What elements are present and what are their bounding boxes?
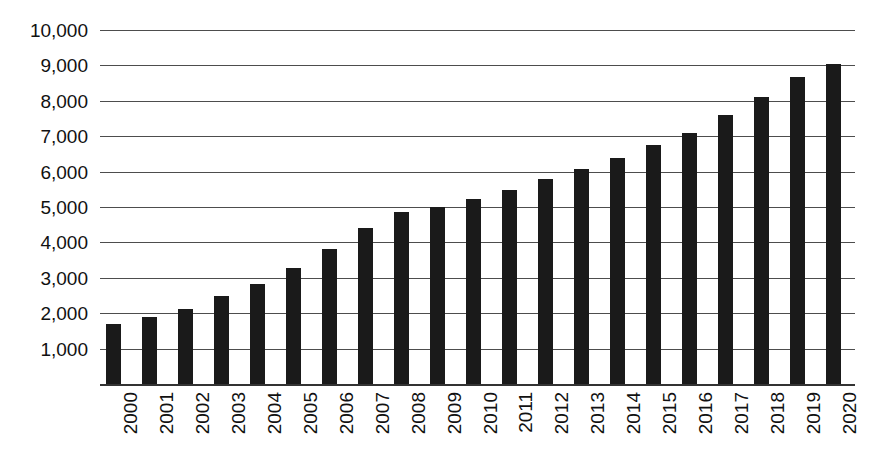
x-tick-label: 2005 [301, 392, 320, 434]
gridline-8000 [100, 101, 855, 102]
bar-2004 [250, 284, 265, 384]
x-tick-label: 2006 [337, 392, 356, 434]
y-tick-label: 9,000 [0, 56, 88, 75]
bar-2013 [574, 169, 589, 384]
x-tick-label: 2009 [445, 392, 464, 434]
x-tick-label: 2012 [552, 392, 571, 434]
bar-2014 [610, 158, 625, 384]
bar-2018 [754, 97, 769, 384]
bar-2019 [790, 77, 805, 384]
y-tick-label: 8,000 [0, 91, 88, 110]
x-tick-label: 2011 [516, 392, 535, 433]
plot-area [100, 30, 855, 390]
x-tick-label: 2018 [768, 392, 787, 434]
bar-2011 [502, 190, 517, 384]
gridline-9000 [100, 65, 855, 66]
y-tick-label: 5,000 [0, 198, 88, 217]
x-tick-label: 2008 [409, 392, 428, 434]
axis-baseline [100, 384, 855, 386]
x-tick-label: 2016 [696, 392, 715, 434]
y-tick-label: 3,000 [0, 268, 88, 287]
y-tick-label: 4,000 [0, 233, 88, 252]
bar-2012 [538, 179, 553, 384]
x-tick-label: 2013 [588, 392, 607, 434]
bar-2015 [646, 145, 661, 384]
bar-2010 [466, 199, 481, 384]
x-tick-label: 2015 [660, 392, 679, 434]
bar-2001 [142, 317, 157, 384]
x-tick-label: 2001 [157, 392, 176, 434]
x-axis: 2000200120022003200420052006200720082009… [100, 392, 855, 470]
bar-2007 [358, 228, 373, 384]
y-tick-label: 7,000 [0, 127, 88, 146]
x-tick-label: 2017 [732, 392, 751, 434]
x-tick-label: 2004 [265, 392, 284, 434]
bar-2009 [430, 207, 445, 384]
bar-chart: 1,0002,0003,0004,0005,0006,0007,0008,000… [0, 0, 871, 470]
gridline-10000 [100, 30, 855, 31]
gridline-7000 [100, 136, 855, 137]
bar-2020 [826, 64, 841, 384]
bar-2008 [394, 212, 409, 384]
x-tick-label: 2014 [624, 392, 643, 434]
y-axis: 1,0002,0003,0004,0005,0006,0007,0008,000… [0, 0, 88, 470]
x-tick-label: 2010 [481, 392, 500, 434]
x-tick-label: 2002 [193, 392, 212, 434]
bar-2000 [106, 324, 121, 384]
bar-2017 [718, 115, 733, 384]
x-tick-label: 2000 [121, 392, 140, 434]
x-tick-label: 2019 [804, 392, 823, 434]
x-tick-label: 2007 [373, 392, 392, 434]
x-tick-label: 2003 [229, 392, 248, 434]
y-tick-label: 1,000 [0, 339, 88, 358]
y-tick-label: 10,000 [0, 21, 88, 40]
bar-2002 [178, 309, 193, 384]
y-tick-label: 6,000 [0, 162, 88, 181]
bar-2005 [286, 268, 301, 384]
y-tick-label: 2,000 [0, 304, 88, 323]
bar-2003 [214, 296, 229, 384]
x-tick-label: 2020 [840, 392, 859, 434]
bar-2006 [322, 249, 337, 384]
gridline-6000 [100, 172, 855, 173]
bar-2016 [682, 133, 697, 384]
